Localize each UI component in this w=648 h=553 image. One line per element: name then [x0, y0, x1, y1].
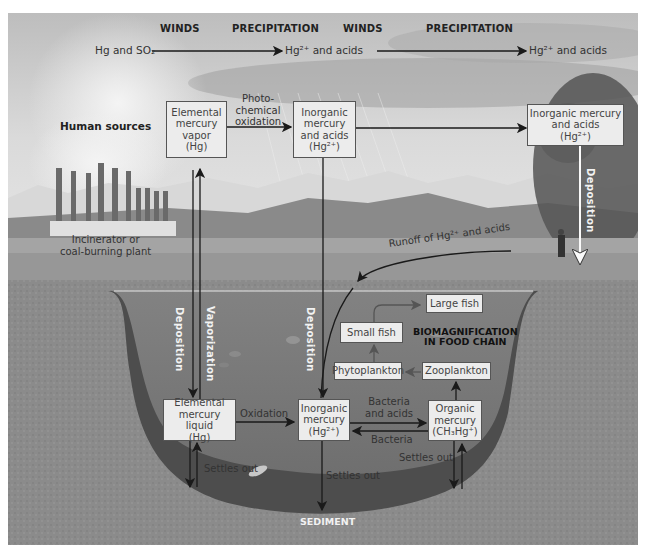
inorganic-mercury-acids-far-box: Inorganic mercury and acids (Hg²⁺) — [527, 104, 624, 146]
deposition-center-label: Deposition — [305, 307, 316, 372]
inorganic-mercury-lower-box: Inorganic mercury (Hg²⁺) — [298, 399, 350, 441]
organic-mercury-box: Organic mercury (CH₃Hg⁺) — [428, 400, 482, 441]
arrows-overlay — [8, 13, 638, 545]
vaporization-label: Vaporization — [205, 306, 216, 382]
large-fish-box: Large fish — [426, 294, 483, 313]
human-sources-label: Human sources — [60, 121, 151, 133]
elemental-mercury-vapor-box: Elemental mercury vapor (Hg) — [166, 101, 227, 158]
inorganic-mercury-acids-box: Inorganic mercury and acids (Hg²⁺) — [293, 101, 356, 158]
precipitation-label-1: PRECIPITATION — [232, 23, 319, 34]
settles-out-center-label: Settles out — [326, 470, 380, 482]
bacteria-label: Bacteria — [371, 434, 413, 446]
oxidation-label: Oxidation — [240, 408, 288, 420]
mercury-cycle-diagram: WINDS PRECIPITATION WINDS PRECIPITATION … — [8, 13, 638, 545]
photochemical-oxidation-label: Photo- chemical oxidation — [235, 93, 281, 128]
deposition-far-label: Deposition — [585, 168, 596, 233]
sediment-label: SEDIMENT — [300, 516, 355, 528]
hg2-acids-label-2: Hg²⁺ and acids — [529, 45, 607, 57]
biomagnification-label: BIOMAGNIFICATION IN FOOD CHAIN — [413, 327, 518, 347]
winds-label-1: WINDS — [160, 23, 200, 34]
phytoplankton-box: Phytoplankton — [334, 362, 402, 380]
zooplankton-box: Zooplankton — [422, 362, 491, 380]
bacteria-and-acids-label: Bacteria and acids — [365, 396, 413, 419]
hg-so2-label: Hg and SO₂ — [95, 45, 155, 57]
precipitation-label-2: PRECIPITATION — [426, 23, 513, 34]
settles-out-left-label: Settles out — [204, 463, 258, 475]
small-fish-box: Small fish — [340, 322, 403, 343]
incinerator-label: Incinerator or coal-burning plant — [60, 234, 151, 257]
winds-label-2: WINDS — [343, 23, 383, 34]
settles-out-right-label: Settles out — [399, 452, 453, 464]
elemental-mercury-liquid-box: Elemental mercury liquid (Hg) — [163, 399, 236, 441]
hg2-acids-label-1: Hg²⁺ and acids — [285, 45, 363, 57]
deposition-left-label: Deposition — [174, 307, 185, 372]
